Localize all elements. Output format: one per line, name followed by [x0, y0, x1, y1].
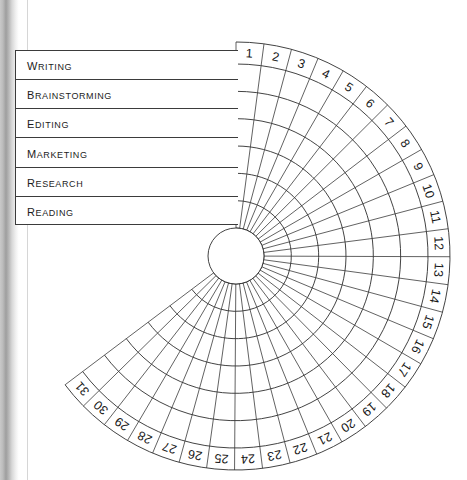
day-number[interactable]: 23 — [266, 447, 283, 463]
legend-label: Writing — [27, 56, 72, 74]
legend-row[interactable]: Research — [16, 168, 238, 197]
legend-label: Reading — [27, 202, 74, 220]
legend-row[interactable]: Reading — [16, 197, 238, 226]
legend-row[interactable]: Editing — [16, 109, 238, 138]
day-number[interactable]: 12 — [431, 236, 446, 251]
legend-label: Research — [27, 173, 83, 191]
day-number[interactable]: 14 — [427, 288, 444, 305]
page-canvas: 1234567891011121314151617181920212223242… — [0, 0, 467, 480]
day-number[interactable]: 1 — [245, 46, 253, 60]
legend-row[interactable]: Brainstorming — [16, 80, 238, 109]
day-number[interactable]: 24 — [240, 451, 255, 466]
legend-label: Brainstorming — [27, 85, 112, 103]
legend-label: Marketing — [27, 144, 88, 162]
legend-row[interactable]: Writing — [16, 51, 238, 80]
day-number[interactable]: 26 — [187, 447, 204, 464]
activity-legend: Writing Brainstorming Editing Marketing … — [15, 50, 238, 225]
day-number[interactable]: 13 — [431, 262, 446, 277]
legend-row[interactable]: Marketing — [16, 138, 238, 167]
legend-label: Editing — [27, 114, 69, 132]
day-number[interactable]: 25 — [214, 451, 229, 466]
day-number[interactable]: 11 — [427, 209, 443, 225]
